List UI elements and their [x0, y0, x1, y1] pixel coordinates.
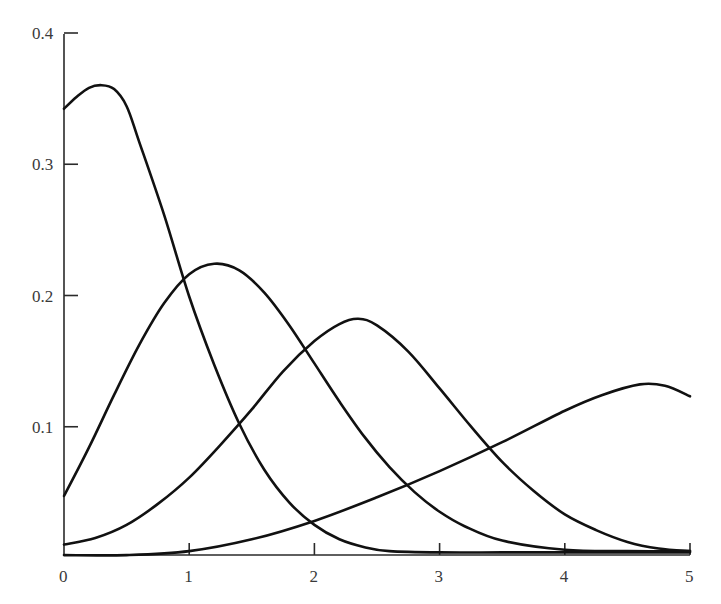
x-tick-label: 3 — [435, 567, 444, 586]
y-tick-label: 0.4 — [32, 24, 54, 43]
x-tick-label: 0 — [59, 567, 68, 586]
y-tick-label: 0.1 — [32, 418, 53, 437]
line-chart: 0.10.20.30.4 012345 — [0, 0, 721, 604]
series-curve-3 — [64, 319, 690, 551]
y-tick-label: 0.2 — [32, 287, 53, 306]
x-tick-label: 5 — [685, 567, 694, 586]
y-tick-label: 0.3 — [32, 155, 53, 174]
plot-area — [64, 85, 690, 555]
series-curve-2 — [64, 264, 690, 552]
x-tick-label: 2 — [309, 567, 318, 586]
x-tick-label: 1 — [184, 567, 193, 586]
series-curve-1 — [64, 85, 690, 552]
x-tick-label: 4 — [560, 567, 569, 586]
